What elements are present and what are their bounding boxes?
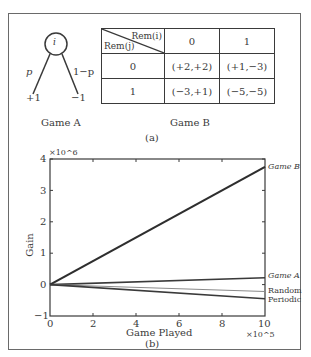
- series-label-game-b: Game B: [268, 163, 300, 171]
- series-game-b: [50, 167, 265, 285]
- series-label-random: Random: [268, 287, 302, 295]
- gain-line-chart: [0, 0, 311, 357]
- x-axis-label: Game Played: [126, 328, 192, 338]
- y-tick-label: 4: [40, 154, 46, 164]
- y-tick-label: 2: [40, 217, 46, 227]
- y-axis-label: Gain: [25, 233, 35, 257]
- panel-b-label: (b): [145, 339, 159, 349]
- y-tick-label: 0: [40, 280, 46, 290]
- series-game-a: [50, 278, 265, 285]
- x-tick-label: 10: [258, 319, 271, 329]
- series-label-periodic: Periodic: [268, 296, 301, 304]
- series-label-game-a: Game A: [268, 272, 300, 280]
- y-tick-label: 3: [40, 186, 46, 196]
- y-tick-label: 1: [40, 248, 46, 258]
- y-multiplier: ×10^6: [49, 149, 78, 157]
- x-tick-label: 2: [90, 319, 96, 329]
- x-multiplier: ×10^5: [246, 331, 275, 339]
- series-periodic: [50, 285, 265, 299]
- series-random: [50, 285, 265, 292]
- x-tick-label: 8: [219, 319, 225, 329]
- x-tick-label: 0: [47, 319, 53, 329]
